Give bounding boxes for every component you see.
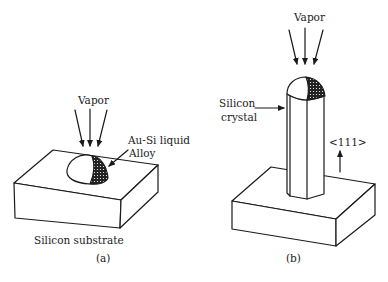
vapor-arrows-a [75,109,107,146]
vls-growth-diagram: Vapor Au-Si liquid Alloy Silicon substra… [0,0,388,282]
silicon-nanowire [287,94,324,199]
nanowire-body [287,94,324,199]
vapor-arrow-icon [314,30,323,64]
au-si-liquid-label: Au-Si liquid [127,134,190,146]
vapor-arrow-icon [289,30,297,64]
au-si-cap [287,77,325,100]
silicon-substrate-label: Silicon substrate [34,234,124,246]
vapor-arrow-icon [98,110,107,146]
alloy-label: Alloy [128,147,156,159]
growth-direction-label: <111> [329,136,367,148]
crystal-label: crystal [221,111,258,123]
silicon-label: Silicon [219,97,255,109]
caption-b: (b) [286,252,301,264]
caption-a: (a) [96,252,110,264]
panel-a: Vapor Au-Si liquid Alloy Silicon substra… [14,94,190,264]
vapor-arrow-icon [75,110,83,146]
panel-b: Vapor Silicon crystal <111> (b) [219,11,375,264]
vapor-label-a: Vapor [77,94,110,106]
vapor-label-b: Vapor [293,11,326,23]
vapor-arrows-b [289,28,323,64]
